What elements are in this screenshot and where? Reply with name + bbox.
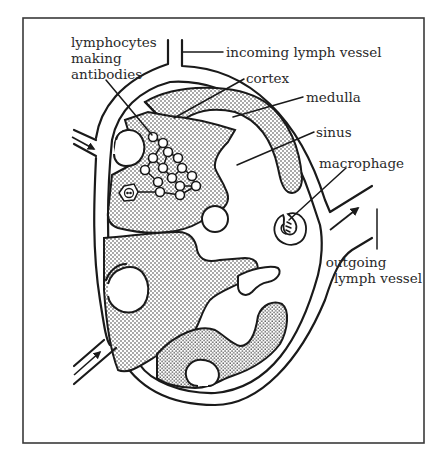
incoming-vessel-lower (74, 340, 116, 384)
upper-lobe-notch (114, 130, 144, 166)
label-antibodies: antibodies (71, 66, 142, 82)
lymph-node-diagram: lymphocytes making antibodies incoming l… (0, 0, 441, 461)
sinus-circle (202, 206, 228, 232)
label-lymph-vessel: lymph vessel (334, 270, 422, 286)
label-sinus: sinus (316, 124, 352, 140)
label-incoming-lymph-vessel: incoming lymph vessel (226, 44, 382, 60)
medulla-notch-circle (108, 267, 148, 312)
incoming-vessel-upper (72, 130, 96, 156)
label-macrophage: macrophage (319, 155, 404, 171)
label-outgoing: outgoing (326, 254, 387, 270)
label-medulla: medulla (306, 89, 361, 105)
label-making: making (71, 50, 122, 66)
label-cortex: cortex (246, 70, 290, 86)
outgoing-vessel (330, 208, 377, 249)
label-lymphocytes: lymphocytes (71, 34, 157, 50)
lower-cord-notch (186, 360, 219, 386)
